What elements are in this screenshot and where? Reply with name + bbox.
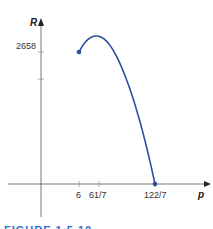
start-point-marker — [77, 50, 82, 55]
y-axis-arrow-icon — [38, 18, 44, 26]
x-axis-arrow-icon — [204, 181, 211, 187]
end-point-marker — [153, 182, 158, 187]
figure-caption: FIGURE 1.5.10 — [4, 224, 92, 229]
x-tick-label-6: 6 — [76, 190, 81, 200]
y-tick-label-2658: 2658 — [16, 41, 36, 51]
y-axis-label: R — [30, 17, 38, 28]
chart: R p 2658 6 61/7 122/7 FIGURE 1.5.10 — [0, 0, 213, 229]
x-tick-label-61-7: 61/7 — [89, 190, 107, 200]
revenue-curve — [79, 36, 155, 184]
x-axis-label: p — [197, 189, 204, 200]
x-tick-label-122-7: 122/7 — [144, 190, 167, 200]
